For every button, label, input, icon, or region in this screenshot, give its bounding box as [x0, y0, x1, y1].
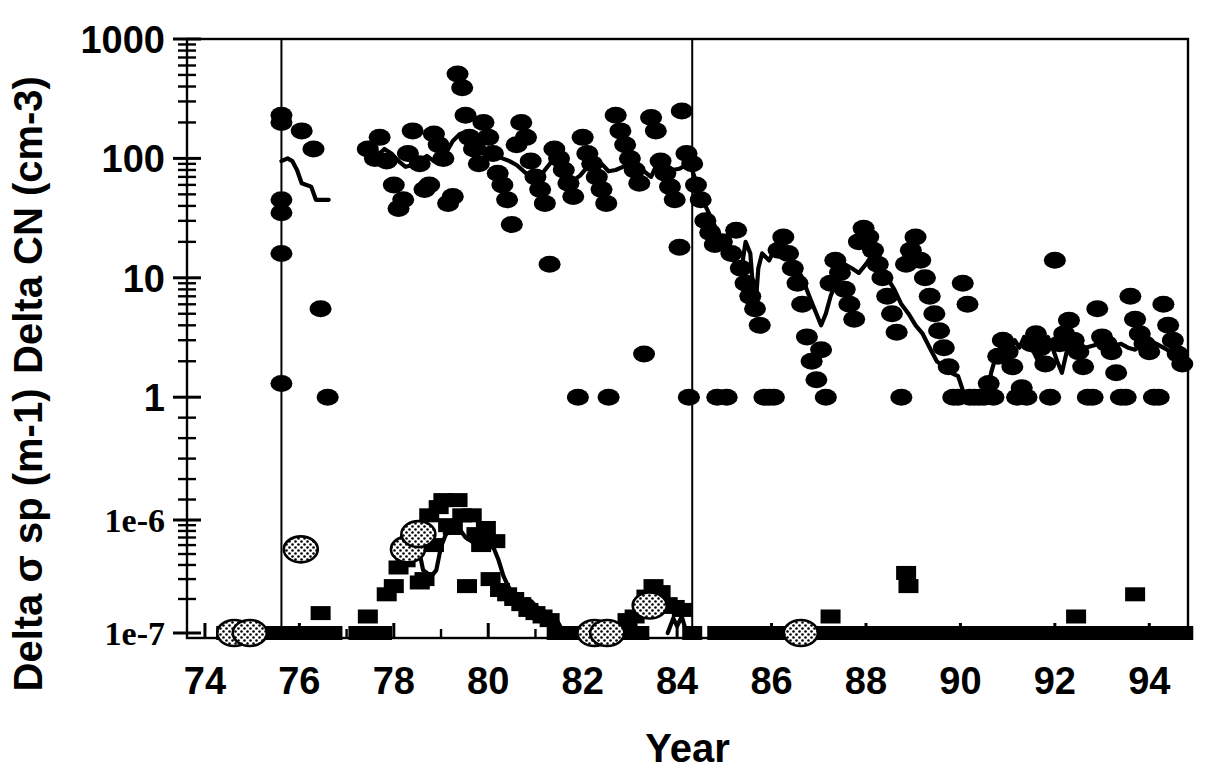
cn-data-point: [997, 343, 1019, 360]
sigma-sp-data-point: [322, 626, 342, 640]
cn-data-point: [905, 228, 927, 245]
cn-data-point: [432, 150, 454, 167]
cn-data-point: [520, 153, 542, 170]
cn-data-point: [1171, 355, 1193, 372]
x-axis-title: Year: [645, 726, 730, 770]
sigma-sp-data-point: [898, 579, 918, 593]
x-tick-label: 78: [373, 660, 415, 702]
cn-data-point: [1157, 317, 1179, 334]
cn-data-point: [383, 176, 405, 193]
x-tick-label: 76: [278, 660, 320, 702]
cn-data-point: [451, 79, 473, 96]
cn-data-point: [982, 389, 1004, 406]
cn-data-point: [1067, 343, 1089, 360]
cn-data-point: [1072, 358, 1094, 375]
cn-data-point: [442, 188, 464, 205]
cn-data-point: [595, 195, 617, 212]
cn-data-point: [1138, 343, 1160, 360]
sigma-sp-data-point: [462, 508, 482, 522]
hatched-marker: [784, 620, 818, 646]
cn-data-point: [890, 389, 912, 406]
hatched-marker: [401, 521, 435, 547]
cn-data-point: [772, 228, 794, 245]
sigma-sp-data-point: [1066, 609, 1086, 623]
cn-data-point: [1101, 343, 1123, 360]
sigma-sp-data-point: [415, 572, 435, 586]
cn-data-point: [843, 311, 865, 328]
cn-data-point: [572, 129, 594, 146]
cn-data-point: [539, 256, 561, 273]
scientific-scatter-chart: 1000 100 10 1 1e-6 1e-7 Delta CN (cm-3) …: [0, 0, 1208, 773]
cn-data-point: [933, 339, 955, 356]
cn-data-point: [1044, 252, 1066, 269]
cn-data-point: [914, 269, 936, 286]
cn-data-point: [749, 317, 771, 334]
cn-data-point: [473, 114, 495, 131]
cn-data-point: [402, 122, 424, 139]
cn-data-point: [270, 114, 292, 131]
cn-data-point: [928, 322, 950, 339]
cn-data-point: [1082, 389, 1104, 406]
cn-data-point: [317, 389, 339, 406]
sigma-sp-data-point: [311, 606, 331, 620]
y-tick-label-100: 100: [102, 138, 165, 180]
cn-data-point: [744, 300, 766, 317]
sigma-sp-data-point: [448, 493, 468, 507]
x-tick-label: 74: [184, 660, 226, 702]
sigma-sp-data-point: [821, 609, 841, 623]
cn-data-point: [886, 324, 908, 341]
cn-data-point: [501, 216, 523, 233]
cn-data-point: [645, 122, 667, 139]
cn-data-point: [678, 389, 700, 406]
cn-data-point: [1152, 296, 1174, 313]
hatched-marker: [590, 620, 624, 646]
cn-data-point: [515, 129, 537, 146]
cn-data-point: [482, 145, 504, 162]
cn-data-point: [1124, 311, 1146, 328]
cn-data-point: [1086, 300, 1108, 317]
x-tick-label: 92: [1034, 660, 1076, 702]
x-tick-label: 88: [845, 660, 887, 702]
cn-data-point: [477, 129, 499, 146]
cn-data-point: [838, 296, 860, 313]
sigma-sp-data-point: [1125, 587, 1145, 601]
cn-data-point: [409, 155, 431, 172]
cn-data-point: [805, 371, 827, 388]
cn-data-point: [270, 245, 292, 262]
x-tick-label: 90: [939, 660, 981, 702]
sigma-sp-data-point: [629, 626, 649, 640]
x-tick-label: 86: [750, 660, 792, 702]
cn-data-point: [418, 176, 440, 193]
cn-data-point: [562, 188, 584, 205]
cn-data-point: [598, 389, 620, 406]
cn-data-point: [872, 269, 894, 286]
cn-data-point: [1034, 355, 1056, 372]
figure-root: 1000 100 10 1 1e-6 1e-7 Delta CN (cm-3) …: [0, 0, 1208, 773]
cn-data-point: [690, 191, 712, 208]
cn-data-point: [681, 155, 703, 172]
cn-data-point: [881, 305, 903, 322]
x-tick-label: 82: [562, 660, 604, 702]
hatched-marker: [284, 536, 318, 562]
sigma-sp-data-point: [672, 603, 692, 617]
cn-data-point: [668, 239, 690, 256]
sigma-sp-data-point: [485, 534, 505, 548]
cn-data-point: [763, 389, 785, 406]
y-axis-title-upper: Delta CN (cm-3): [6, 76, 50, 374]
hatched-marker: [233, 620, 267, 646]
cn-data-point: [787, 275, 809, 292]
x-tick-label: 94: [1128, 660, 1170, 702]
y-tick-label-1e-6: 1e-6: [105, 502, 165, 539]
sigma-sp-data-point: [682, 626, 702, 640]
cn-data-point: [510, 114, 532, 131]
cn-data-point: [1115, 389, 1137, 406]
cn-data-point: [671, 102, 693, 119]
y-tick-label-1000: 1000: [80, 19, 165, 61]
cn-data-point: [1148, 389, 1170, 406]
cn-data-point: [815, 389, 837, 406]
cn-data-point: [1016, 389, 1038, 406]
sigma-sp-data-point: [372, 626, 392, 640]
cn-data-point: [730, 260, 752, 277]
sigma-sp-data-point: [384, 579, 404, 593]
cn-data-point: [923, 305, 945, 322]
